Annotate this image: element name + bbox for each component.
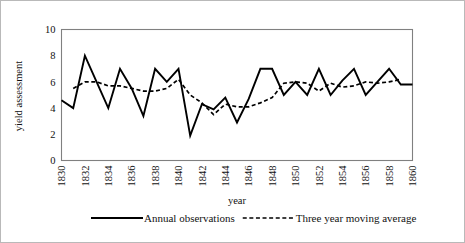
x-tick-label: 1846 xyxy=(243,166,254,187)
x-tick-label: 1838 xyxy=(150,166,161,187)
x-tick-label: 1840 xyxy=(173,166,184,187)
yield-assessment-line-chart: yield assessment 0246810 183018321834183… xyxy=(1,1,465,243)
y-tick-label: 10 xyxy=(45,24,56,35)
x-axis-tick-labels: 1830183218341836183818401842184418461848… xyxy=(56,165,418,187)
x-tick-label: 1836 xyxy=(126,166,137,187)
chart-legend: Annual observationsThree year moving ave… xyxy=(91,212,416,224)
y-tick-label: 4 xyxy=(50,103,56,114)
x-tick-label: 1860 xyxy=(407,166,418,187)
legend-label-2: Three year moving average xyxy=(296,212,417,224)
legend-label-1: Annual observations xyxy=(144,212,235,224)
x-tick-label: 1856 xyxy=(360,166,371,187)
x-tick-label: 1830 xyxy=(56,166,67,187)
x-tick-label: 1832 xyxy=(80,166,91,187)
x-tick-label: 1852 xyxy=(314,166,325,187)
y-axis-tick-labels: 0246810 xyxy=(45,24,56,166)
plot-frame xyxy=(62,30,413,161)
y-tick-label: 2 xyxy=(50,129,55,140)
chart-canvas: yield assessment 0246810 183018321834183… xyxy=(1,1,465,243)
y-tick-label: 0 xyxy=(50,155,55,166)
x-tick-label: 1848 xyxy=(267,166,278,187)
x-tick-label: 1854 xyxy=(337,165,348,187)
y-tick-label: 6 xyxy=(50,77,55,88)
figure-container: yield assessment 0246810 183018321834183… xyxy=(0,0,465,243)
x-tick-label: 1850 xyxy=(290,166,301,187)
y-tick-label: 8 xyxy=(50,50,55,61)
y-axis-title: yield assessment xyxy=(13,61,24,131)
x-tick-label: 1834 xyxy=(103,165,114,187)
x-tick-label: 1842 xyxy=(197,166,208,187)
x-tick-label: 1858 xyxy=(384,166,395,187)
x-tick-label: 1844 xyxy=(220,165,231,187)
x-axis-title: year xyxy=(228,195,247,206)
